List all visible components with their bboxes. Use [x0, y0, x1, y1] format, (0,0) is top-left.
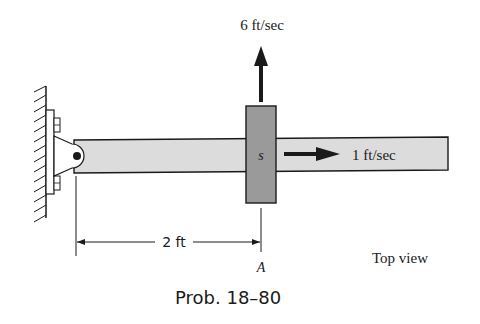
pin-joint-icon — [73, 152, 81, 160]
bolt-bottom — [54, 176, 60, 190]
velocity-label-up: 6 ft/sec — [240, 17, 284, 33]
velocity-label-right: 1 ft/sec — [352, 147, 396, 163]
velocity-arrow-up — [254, 46, 268, 102]
fixed-wall — [34, 86, 46, 222]
figure-caption: Prob. 18–80 — [175, 287, 281, 308]
wall-hatching — [34, 86, 46, 222]
collar-label: s — [258, 148, 264, 163]
dimension-label: 2 ft — [162, 234, 186, 250]
mounting-plate — [46, 110, 54, 194]
view-label: Top view — [372, 250, 428, 266]
bolt-top — [54, 118, 60, 132]
point-label: A — [256, 260, 266, 275]
diagram-canvas: s 6 ft/sec 1 ft/sec 2 ft A Top view Prob… — [0, 0, 480, 324]
